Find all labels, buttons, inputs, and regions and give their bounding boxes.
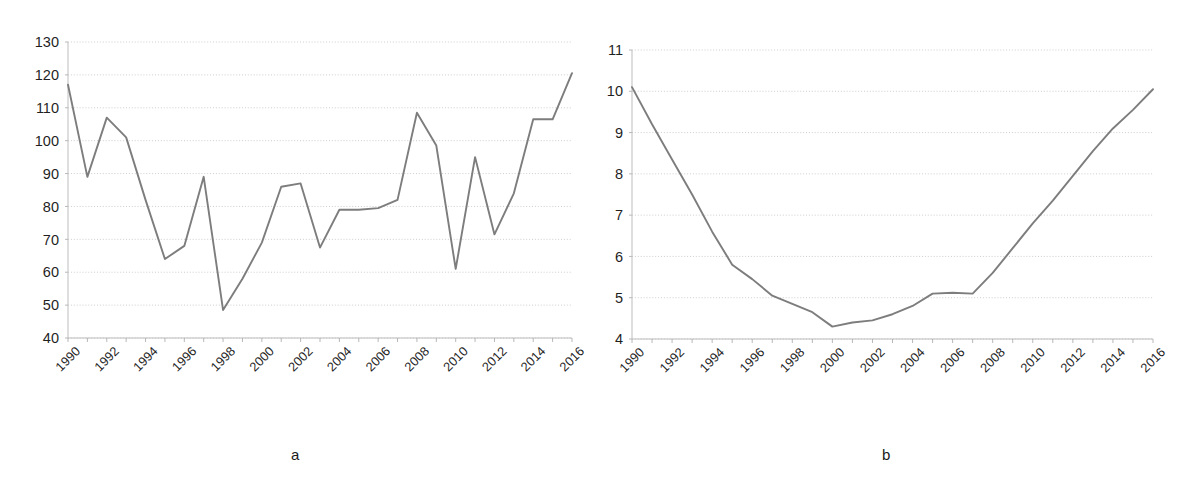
panel-b-caption: b	[591, 446, 1182, 463]
y-axis-tick-label: 8	[615, 166, 623, 182]
x-axis-tick-label: 2002	[285, 344, 316, 375]
y-axis-tick-label: 60	[43, 264, 59, 280]
x-axis-tick-label: 2016	[556, 344, 587, 375]
y-axis-tick-label: 120	[35, 67, 59, 83]
x-axis-tick-label: 2006	[363, 344, 394, 375]
x-axis-tick-label: 2004	[324, 344, 355, 375]
x-axis-tick-label: 1992	[91, 344, 122, 375]
x-axis-tick-label: 2008	[977, 345, 1008, 376]
y-axis-tick-label: 5	[615, 290, 623, 306]
x-axis-tick-label: 1992	[656, 345, 687, 376]
x-axis-tick-label: 1996	[737, 345, 768, 376]
x-axis-tick-label: 2010	[440, 344, 471, 375]
y-axis-tick-label: 9	[615, 125, 623, 141]
y-axis-tick-label: 100	[35, 133, 59, 149]
x-axis-tick-label: 2010	[1017, 345, 1048, 376]
y-axis-tick-label: 11	[608, 42, 623, 58]
x-axis-tick-label: 1998	[777, 345, 808, 376]
chart-panel-a: 4050607080901001101201301990199219941996…	[0, 0, 591, 491]
x-axis-tick-label: 1990	[52, 344, 83, 375]
x-axis-tick-label: 1994	[697, 345, 728, 376]
y-axis-tick-label: 70	[43, 232, 59, 248]
x-axis-tick-label: 1990	[616, 345, 647, 376]
x-axis-tick-label: 2004	[897, 345, 928, 376]
data-series-line	[632, 87, 1153, 326]
y-axis-tick-label: 10	[607, 83, 623, 99]
y-axis-tick-label: 7	[615, 207, 623, 223]
x-axis-tick-label: 2006	[937, 345, 968, 376]
y-axis-tick-label: 80	[43, 199, 59, 215]
x-axis-tick-label: 2000	[246, 344, 277, 375]
x-axis-tick-label: 2008	[401, 344, 432, 375]
x-axis-tick-label: 2014	[1097, 345, 1128, 376]
x-axis-tick-label: 1998	[207, 344, 238, 375]
y-axis-tick-label: 130	[35, 34, 59, 50]
y-axis-tick-label: 50	[43, 297, 59, 313]
y-axis-tick-label: 110	[36, 100, 59, 116]
x-axis-tick-label: 2012	[479, 344, 510, 375]
line-chart-b: 4567891011199019921994199619982000200220…	[591, 0, 1182, 491]
y-axis-tick-label: 4	[615, 331, 623, 347]
y-axis-tick-label: 90	[43, 166, 59, 182]
chart-panel-b: 4567891011199019921994199619982000200220…	[591, 0, 1182, 491]
x-axis-tick-label: 2012	[1057, 345, 1088, 376]
x-axis-tick-label: 2002	[857, 345, 888, 376]
x-axis-tick-label: 1996	[169, 344, 200, 375]
x-axis-tick-label: 2014	[518, 344, 549, 375]
line-chart-a: 4050607080901001101201301990199219941996…	[0, 0, 591, 491]
x-axis-tick-label: 2000	[817, 345, 848, 376]
x-axis-tick-label: 1994	[130, 344, 161, 375]
data-series-line	[68, 73, 572, 310]
y-axis-tick-label: 6	[615, 249, 623, 265]
panel-a-caption: a	[0, 446, 601, 463]
x-axis-tick-label: 2016	[1137, 345, 1168, 376]
two-panel-line-chart-figure: 4050607080901001101201301990199219941996…	[0, 0, 1182, 491]
y-axis-tick-label: 40	[43, 330, 59, 346]
